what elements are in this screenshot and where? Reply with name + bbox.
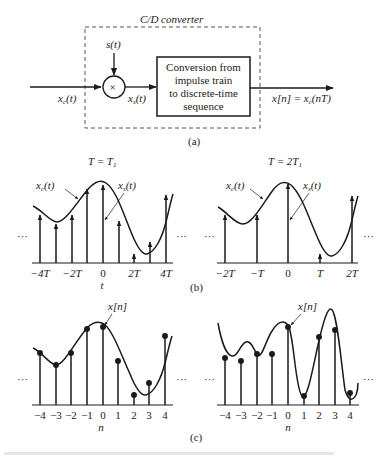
tick-label: 1 [115, 409, 121, 421]
tick-label: −4 [219, 409, 231, 421]
tick-label: 1 [301, 409, 307, 421]
tick-label: 2T [128, 267, 141, 279]
sampling-diagram: C/D converter s(t) xc(t) × xs(t) Convers… [0, 0, 386, 457]
xs-label: xs(t) [302, 179, 321, 193]
tick-label: 4 [162, 409, 168, 421]
ellipsis-right: ··· [363, 373, 374, 385]
xc-label: xc(t) [35, 179, 55, 193]
input-label: xc(t) [57, 92, 77, 106]
block-diagram: C/D converter s(t) xc(t) × xs(t) Convers… [30, 13, 333, 148]
plot-c-right: x[n] ··· ··· −4 −3 −2 −1 0 1 2 3 4 n [204, 300, 374, 433]
converter-title: C/D converter [140, 13, 204, 25]
xs-label: xs(t) [127, 92, 146, 106]
tick-label: −3 [50, 409, 62, 421]
tick-label: −T [250, 267, 264, 279]
axis-var-n: n [285, 421, 291, 433]
caption-a: (a) [188, 135, 201, 148]
tick-label: 2 [131, 409, 137, 421]
tick-label: 0 [100, 409, 106, 421]
tick-label: −1 [266, 409, 278, 421]
ellipsis-left: ··· [204, 373, 215, 385]
tick-label: 4T [160, 267, 173, 279]
tick-label: 0 [285, 267, 291, 279]
ellipsis-left: ··· [17, 230, 28, 242]
multiply-icon: × [110, 81, 116, 93]
ellipsis-left: ··· [17, 373, 28, 385]
tick-label: −2 [65, 409, 77, 421]
xn-label: x[n] [297, 300, 317, 312]
tick-label: −3 [235, 409, 247, 421]
tick-label: −4T [30, 267, 50, 279]
tick-label: −2 [251, 409, 263, 421]
plot-b-right: T = 2T1 xc(t) xs(t) ··· ··· −2T −T 0 T 2… [204, 155, 374, 279]
ellipsis-left: ··· [204, 230, 215, 242]
tick-label: −1 [81, 409, 93, 421]
block-line-1: Conversion from [166, 61, 241, 73]
xc-pointer [65, 189, 78, 199]
tick-label: T [317, 267, 324, 279]
block-line-2: impulse train [175, 74, 233, 86]
tick-label: 3 [332, 409, 338, 421]
faded-caption-strip [4, 452, 334, 455]
ellipsis-right: ··· [176, 373, 187, 385]
tick-label: −2T [62, 267, 82, 279]
xn-pointer [291, 314, 301, 325]
axis-var-n: n [98, 421, 104, 433]
block-line-3: to discrete-time [169, 87, 238, 99]
plot-b-right-title: T = 2T1 [268, 155, 302, 169]
xn-label: x[n] [107, 300, 127, 312]
caption-b: (b) [190, 281, 203, 294]
stem-sequence [38, 325, 167, 405]
axis-var-t: t [100, 279, 104, 291]
stem-sequence [223, 325, 352, 405]
xn-pointer [105, 314, 112, 325]
tick-label: −4 [34, 409, 46, 421]
xc-pointer [250, 189, 263, 199]
tick-label: 2T [346, 267, 359, 279]
tick-label: 3 [146, 409, 152, 421]
tick-label: 0 [100, 267, 106, 279]
tick-label: 4 [347, 409, 353, 421]
caption-c: (c) [190, 431, 203, 444]
tick-label: −2T [215, 267, 235, 279]
plot-c-left: x[n] ··· ··· −4 −3 −2 −1 0 1 2 3 4 n [17, 300, 187, 433]
ellipsis-right: ··· [363, 230, 374, 242]
plot-b-left: T = T1 xc(t) xs(t) ··· ··· −4T −2T 0 2T … [17, 155, 187, 291]
plot-b-left-title: T = T1 [88, 155, 116, 169]
block-line-4: sequence [183, 100, 223, 112]
output-label: x[n] = xc(nT) [271, 92, 331, 106]
s-t-label: s(t) [106, 38, 121, 51]
tick-label: 0 [285, 409, 291, 421]
ellipsis-right: ··· [176, 230, 187, 242]
xc-label: xc(t) [225, 179, 245, 193]
impulse-train [40, 185, 166, 263]
xs-label: xs(t) [117, 179, 136, 193]
tick-label: 2 [316, 409, 322, 421]
